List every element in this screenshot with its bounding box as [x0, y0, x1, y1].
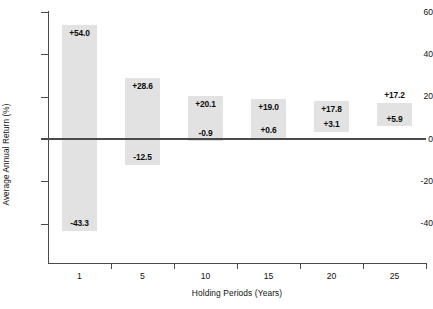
y-tick-mark	[41, 224, 48, 225]
x-tick-mark	[174, 263, 175, 269]
bar-value-low: -0.9	[198, 129, 212, 137]
x-tick-mark	[300, 263, 301, 269]
bar-value-low: -12.5	[133, 153, 152, 161]
bar-value-low: -43.3	[70, 219, 89, 227]
zero-baseline	[41, 138, 426, 140]
x-tick-label: 15	[264, 272, 274, 281]
bar-value-high: +17.2	[384, 91, 405, 99]
x-tick-label: 10	[201, 272, 211, 281]
y-axis-title: Average Annual Return (%)	[0, 0, 14, 309]
y-tick-mark	[41, 12, 48, 13]
bar-value-low: +5.9	[386, 115, 402, 123]
y-tick-label: -20	[396, 177, 433, 186]
y-tick-mark	[41, 54, 48, 55]
bar-value-low: +0.6	[260, 126, 276, 134]
x-tick-mark	[237, 263, 238, 269]
bar-value-high: +20.1	[195, 100, 216, 108]
chart-container: Average Annual Return (%) 6040200-20-40 …	[0, 0, 433, 309]
bar-value-high: +28.6	[132, 82, 153, 90]
y-tick-label: -40	[396, 219, 433, 228]
x-tick-label: 5	[140, 272, 145, 281]
x-tick-mark	[363, 263, 364, 269]
y-tick-label: 60	[396, 8, 433, 17]
bar-value-high: +17.8	[321, 105, 342, 113]
y-tick-mark	[41, 97, 48, 98]
bar	[62, 25, 97, 231]
x-tick-mark	[426, 263, 427, 269]
x-axis-title: Holding Periods (Years)	[48, 288, 426, 298]
y-tick-mark	[41, 181, 48, 182]
bar-value-high: +19.0	[258, 103, 279, 111]
x-tick-label: 20	[327, 272, 337, 281]
x-tick-label: 25	[390, 272, 400, 281]
y-tick-label: 40	[396, 50, 433, 59]
x-tick-label: 1	[77, 272, 82, 281]
bar-value-low: +3.1	[323, 120, 339, 128]
x-tick-mark	[111, 263, 112, 269]
bar-value-high: +54.0	[69, 29, 90, 37]
